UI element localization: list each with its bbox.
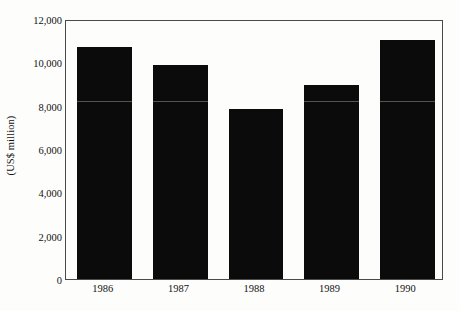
bar: [77, 47, 132, 279]
x-axis-tick-label: 1987: [168, 283, 189, 294]
x-axis-tick-label: 1988: [244, 283, 265, 294]
y-axis-tick-label: 12,000: [14, 15, 62, 26]
y-axis-tick-label: 10,000: [14, 58, 62, 69]
y-axis-tick-labels: 02,0004,0006,0008,00010,00012,000: [14, 20, 62, 280]
x-axis-tick-label: 1990: [395, 283, 416, 294]
y-axis-tick-label: 2,000: [14, 231, 62, 242]
bar: [229, 109, 284, 279]
plot-area: [65, 20, 443, 280]
x-axis-tick-labels: 19861987198819891990: [65, 283, 443, 303]
x-axis-tick-label: 1989: [319, 283, 340, 294]
y-axis-tick-label: 8,000: [14, 101, 62, 112]
y-axis-tick-label: 4,000: [14, 188, 62, 199]
x-axis-tick-label: 1986: [92, 283, 113, 294]
y-axis-tick-label: 6,000: [14, 145, 62, 156]
y-axis-tick-label: 0: [14, 275, 62, 286]
bar: [153, 65, 208, 280]
bar: [304, 85, 359, 279]
bar-chart: (US$ million) 02,0004,0006,0008,00010,00…: [0, 0, 460, 311]
plot-inner: [66, 21, 442, 279]
bar: [380, 40, 435, 279]
